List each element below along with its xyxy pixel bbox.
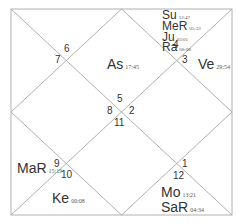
planet-degree: 17:45 xyxy=(125,64,139,70)
house-number-3: 3 xyxy=(182,55,188,65)
planet-degree: 05:33 xyxy=(189,26,200,31)
planet-name: As xyxy=(107,56,123,72)
house-number-11: 11 xyxy=(114,118,124,128)
planet-name: Ve xyxy=(198,56,214,72)
planet-mars-retro: MaR15:19 xyxy=(17,160,62,176)
planet-name: Mo xyxy=(161,184,180,200)
planet-name: Ra xyxy=(162,40,177,54)
house-number-12: 12 xyxy=(173,171,184,181)
house-number-10: 10 xyxy=(61,170,72,180)
planet-ketu: Ke00:08 xyxy=(52,190,85,206)
planet-rahu: Ra00:08 xyxy=(162,38,191,54)
planet-degree: 15:19 xyxy=(49,168,63,174)
house-number-6: 6 xyxy=(64,44,70,54)
planet-degree: 29:54 xyxy=(216,64,230,70)
planet-name: MaR xyxy=(17,160,47,176)
planet-degree: 13:21 xyxy=(182,192,196,198)
planet-degree: 04:34 xyxy=(190,207,204,213)
planet-saturn-retro: SaR04:34 xyxy=(161,199,204,215)
house-number-1: 1 xyxy=(182,159,188,169)
planet-name: Ke xyxy=(52,190,69,206)
planet-degree: 00:08 xyxy=(71,198,85,204)
house-number-2: 2 xyxy=(129,106,135,116)
house-number-7: 7 xyxy=(55,55,61,65)
planet-venus: Ve29:54 xyxy=(198,56,230,72)
planet-ascendant: As17:45 xyxy=(107,56,139,72)
planet-name: SaR xyxy=(161,199,188,215)
planet-moon: Mo13:21 xyxy=(161,184,196,200)
house-number-8: 8 xyxy=(107,106,113,116)
planet-degree: 00:08 xyxy=(179,47,190,52)
house-number-5: 5 xyxy=(117,94,123,104)
kundali-chart-frame xyxy=(0,0,241,224)
